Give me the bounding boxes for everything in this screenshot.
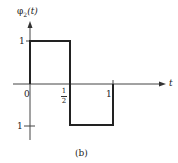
x-tick-label-0: 0 bbox=[24, 90, 30, 99]
y-tick-label-1: 1 bbox=[19, 37, 25, 46]
x-axis-label: t bbox=[169, 79, 173, 88]
chart-canvas bbox=[0, 0, 178, 163]
x-tick-label-half-denominator: 2 bbox=[62, 97, 66, 105]
x-tick-label-1: 1 bbox=[106, 90, 112, 99]
waveform-phi2 bbox=[30, 41, 113, 125]
figure-caption: (b) bbox=[75, 149, 88, 158]
y-tick-label-neg1: 1 bbox=[17, 122, 23, 131]
y-axis-arrow-icon bbox=[28, 21, 33, 28]
x-tick-label-half-numerator: 1 bbox=[62, 87, 66, 95]
x-axis-arrow-icon bbox=[159, 82, 166, 87]
y-axis-label-arg: (t) bbox=[27, 6, 38, 16]
x-tick-label-half: 1 2 bbox=[61, 88, 67, 105]
y-axis-label: φ2(t) bbox=[17, 7, 38, 19]
